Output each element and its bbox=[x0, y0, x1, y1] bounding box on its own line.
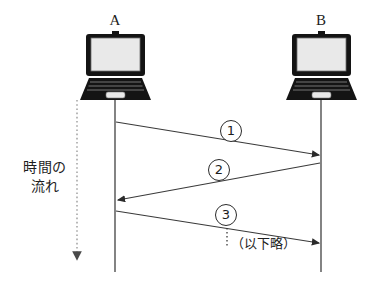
message-number-1: 1 bbox=[220, 120, 242, 142]
node-label-b: B bbox=[306, 12, 336, 29]
time-axis-caption: 時間の 流れ bbox=[8, 158, 82, 196]
node-label-a: A bbox=[100, 12, 130, 29]
laptop-icon-a bbox=[80, 31, 151, 100]
laptop-icon-b bbox=[286, 31, 357, 100]
time-axis-caption-line1: 時間の bbox=[23, 159, 67, 175]
diagram-canvas bbox=[0, 0, 386, 289]
message-number-3: 3 bbox=[215, 204, 237, 226]
time-axis-caption-line2: 流れ bbox=[8, 177, 82, 196]
message-arrow-1 bbox=[116, 122, 319, 155]
sequence-diagram: A B 時間の 流れ 1 2 3 （以下略） bbox=[0, 0, 386, 289]
message-number-2: 2 bbox=[208, 159, 230, 181]
continuation-note: （以下略） bbox=[231, 233, 296, 252]
